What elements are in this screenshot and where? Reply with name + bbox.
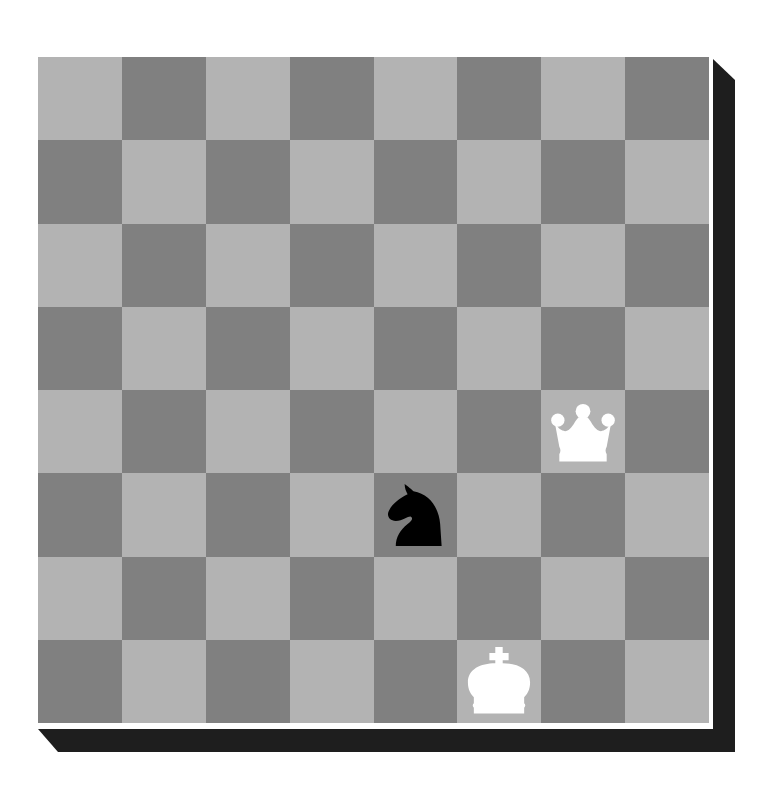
square-g2[interactable] — [541, 557, 625, 640]
board-shadow-bottom — [38, 729, 735, 752]
square-b5[interactable] — [122, 307, 206, 390]
square-c4[interactable] — [206, 390, 290, 473]
square-h5[interactable] — [625, 307, 709, 390]
white-king-icon[interactable] — [462, 644, 536, 718]
square-e7[interactable] — [374, 140, 458, 223]
square-b3[interactable] — [122, 473, 206, 556]
square-c2[interactable] — [206, 557, 290, 640]
square-f7[interactable] — [457, 140, 541, 223]
square-h4[interactable] — [625, 390, 709, 473]
square-h3[interactable] — [625, 473, 709, 556]
square-a4[interactable] — [38, 390, 122, 473]
square-d8[interactable] — [290, 57, 374, 140]
square-d6[interactable] — [290, 224, 374, 307]
square-c7[interactable] — [206, 140, 290, 223]
square-g8[interactable] — [541, 57, 625, 140]
square-c5[interactable] — [206, 307, 290, 390]
square-e2[interactable] — [374, 557, 458, 640]
square-f1[interactable] — [457, 640, 541, 723]
square-a8[interactable] — [38, 57, 122, 140]
square-a6[interactable] — [38, 224, 122, 307]
square-b4[interactable] — [122, 390, 206, 473]
square-f5[interactable] — [457, 307, 541, 390]
white-queen-icon[interactable] — [546, 395, 620, 469]
black-knight-icon[interactable] — [378, 478, 452, 552]
square-b2[interactable] — [122, 557, 206, 640]
square-g5[interactable] — [541, 307, 625, 390]
square-d2[interactable] — [290, 557, 374, 640]
square-e1[interactable] — [374, 640, 458, 723]
square-d7[interactable] — [290, 140, 374, 223]
square-g4[interactable] — [541, 390, 625, 473]
chess-board — [38, 57, 709, 723]
square-a7[interactable] — [38, 140, 122, 223]
square-c8[interactable] — [206, 57, 290, 140]
square-a3[interactable] — [38, 473, 122, 556]
square-g7[interactable] — [541, 140, 625, 223]
square-a5[interactable] — [38, 307, 122, 390]
square-f2[interactable] — [457, 557, 541, 640]
square-d1[interactable] — [290, 640, 374, 723]
square-a2[interactable] — [38, 557, 122, 640]
square-g6[interactable] — [541, 224, 625, 307]
square-h8[interactable] — [625, 57, 709, 140]
square-b8[interactable] — [122, 57, 206, 140]
square-c3[interactable] — [206, 473, 290, 556]
square-g3[interactable] — [541, 473, 625, 556]
square-d4[interactable] — [290, 390, 374, 473]
square-f3[interactable] — [457, 473, 541, 556]
square-b6[interactable] — [122, 224, 206, 307]
square-e5[interactable] — [374, 307, 458, 390]
square-e8[interactable] — [374, 57, 458, 140]
square-f8[interactable] — [457, 57, 541, 140]
square-h6[interactable] — [625, 224, 709, 307]
square-e3[interactable] — [374, 473, 458, 556]
square-e4[interactable] — [374, 390, 458, 473]
square-h1[interactable] — [625, 640, 709, 723]
square-a1[interactable] — [38, 640, 122, 723]
square-f6[interactable] — [457, 224, 541, 307]
board-shadow-right — [713, 59, 735, 752]
square-b1[interactable] — [122, 640, 206, 723]
square-d5[interactable] — [290, 307, 374, 390]
square-e6[interactable] — [374, 224, 458, 307]
square-c1[interactable] — [206, 640, 290, 723]
square-b7[interactable] — [122, 140, 206, 223]
square-f4[interactable] — [457, 390, 541, 473]
square-d3[interactable] — [290, 473, 374, 556]
square-h2[interactable] — [625, 557, 709, 640]
square-g1[interactable] — [541, 640, 625, 723]
square-h7[interactable] — [625, 140, 709, 223]
square-c6[interactable] — [206, 224, 290, 307]
